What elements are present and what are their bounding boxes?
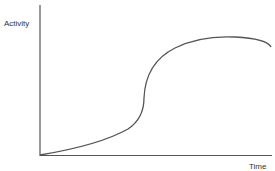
x-axis-label: Time [249, 162, 266, 171]
chart-canvas [0, 0, 275, 171]
chart: Activity Time [0, 0, 275, 171]
y-axis-label: Activity [4, 19, 29, 28]
activity-curve [40, 37, 271, 155]
